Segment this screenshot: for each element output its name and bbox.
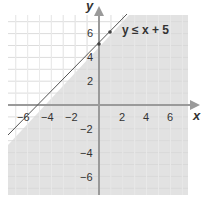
y-axis-label: y [85, 0, 94, 13]
inequality-label: y ≤ x + 5 [122, 23, 169, 37]
y-tick-2: 2 [87, 75, 93, 87]
y-tick--4: −4 [80, 147, 93, 159]
x-tick--2: −2 [65, 111, 78, 123]
y-tick--2: −2 [80, 123, 93, 135]
point-1-6 [108, 30, 112, 34]
point-0-5 [97, 42, 101, 46]
x-tick-2: 2 [119, 111, 125, 123]
x-axis-label: x [192, 108, 201, 123]
y-axis-arrow-icon [94, 6, 104, 16]
y-tick-6: 6 [87, 27, 93, 39]
x-tick--4: −4 [41, 111, 54, 123]
x-tick-4: 4 [143, 111, 149, 123]
y-tick-4: 4 [87, 51, 93, 63]
y-tick--6: −6 [80, 171, 93, 183]
x-tick-6: 6 [167, 111, 173, 123]
inequality-graph: y x y ≤ x + 5 −6 −4 −2 2 4 6 6 4 2 −2 −4… [0, 0, 208, 208]
x-tick--6: −6 [17, 111, 30, 123]
